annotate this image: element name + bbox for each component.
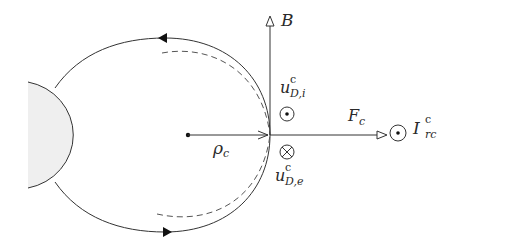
b-axis-arrowhead [266,16,274,26]
label-radius: ρ c [213,140,223,157]
label-magnetic-field: B [281,12,294,29]
arrow-right-icon [163,227,172,237]
label-drift-electron: u c D,e [275,168,285,184]
label-force-sub: c [359,116,365,127]
label-ring-current: I c rc [413,120,420,137]
label-force-main: F [348,106,359,125]
label-drift-ion-sup: c [290,74,296,85]
label-drift-ion: u c D,i [280,80,290,96]
label-drift-ion-sub: D,i [290,88,305,99]
f-axis-arrowhead [377,131,387,139]
label-radius-main: ρ [213,138,223,158]
curvature-circle-top [162,51,270,135]
out-of-page-dot [285,112,289,116]
label-drift-electron-sub: D,e [285,176,303,187]
ring-current-out-dot [396,131,400,135]
label-ring-current-main: I [413,118,420,138]
field-line-bottom [55,135,270,232]
label-force: F c [348,108,359,124]
label-ring-current-sup: c [425,114,431,125]
label-drift-ion-main: u [280,78,290,97]
label-magnetic-field-text: B [281,10,294,30]
label-radius-sub: c [223,148,229,159]
planet-half-disk [28,82,73,188]
label-drift-electron-main: u [275,166,285,185]
label-ring-current-sub: rc [425,129,436,140]
label-drift-electron-sup: c [285,162,291,173]
arrow-left-icon [158,33,167,43]
